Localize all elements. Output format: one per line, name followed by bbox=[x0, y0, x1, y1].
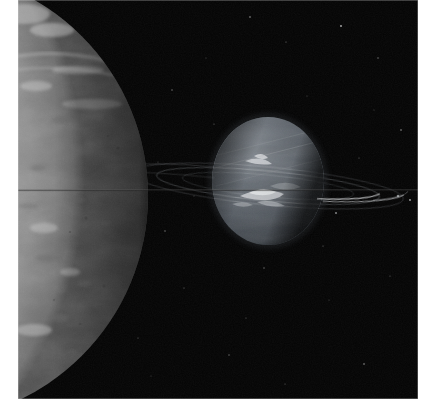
image-canvas bbox=[0, 0, 426, 411]
scene-svg bbox=[18, 0, 418, 399]
astronomy-photo-plate bbox=[18, 0, 418, 399]
film-grain-overlay bbox=[18, 0, 418, 399]
